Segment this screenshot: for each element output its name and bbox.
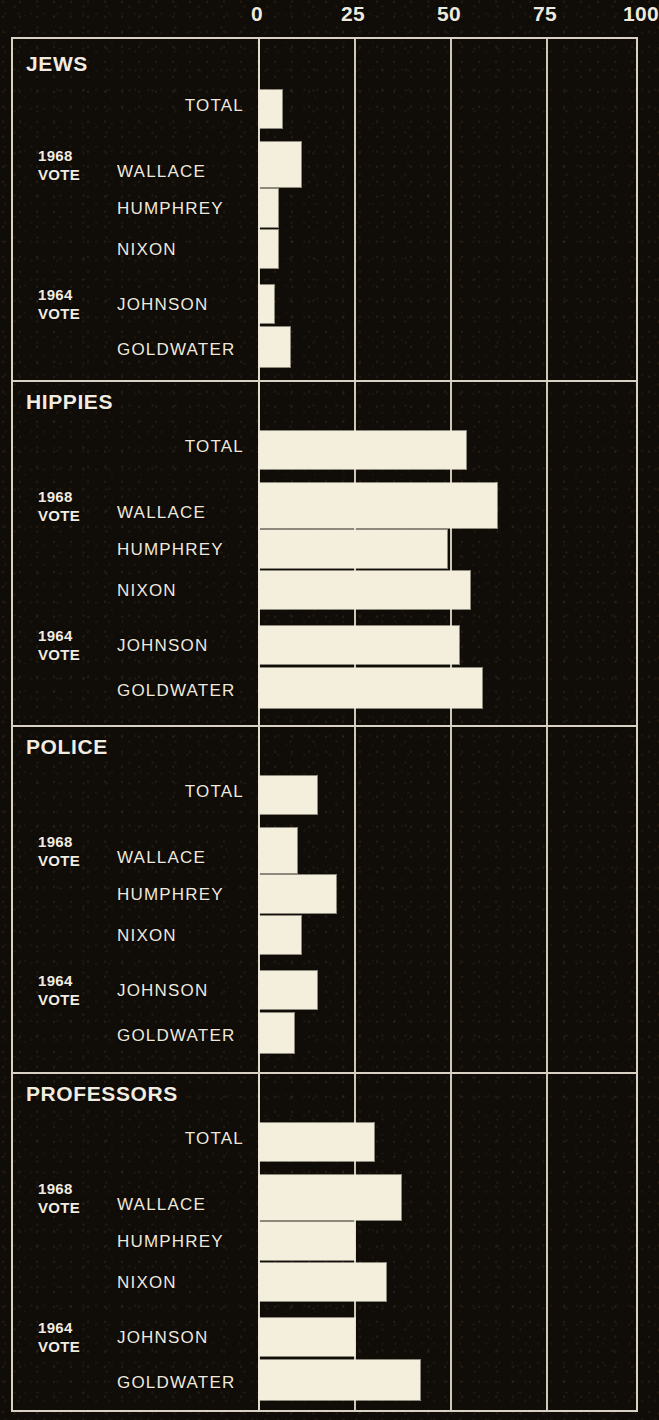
bar [259,668,482,708]
bar [259,626,459,664]
chart-row: JOHNSON [13,626,636,664]
bar [259,483,497,528]
chart-row: WALLACE [13,828,636,873]
row-label: GOLDWATER [117,1373,235,1393]
panel-divider [13,1072,636,1074]
row-label: HUMPHREY [117,885,224,905]
bar [259,571,470,609]
chart-row: GOLDWATER [13,327,636,367]
bar [259,285,274,323]
bar [259,327,290,367]
x-axis-tick-labels: 0255075100 [0,2,659,34]
chart-row: JOHNSON [13,1318,636,1356]
chart-row: TOTAL [13,90,636,128]
row-label: JOHNSON [117,295,209,315]
chart-row: NIXON [13,230,636,268]
bar [259,142,301,187]
row-label: JOHNSON [117,1328,209,1348]
chart-row: GOLDWATER [13,668,636,708]
chart-row: NIXON [13,1263,636,1301]
row-label: WALLACE [117,503,206,523]
bar [259,828,297,873]
x-axis-tick-label: 0 [251,2,263,26]
x-axis-tick-label: 100 [623,2,659,26]
bar [259,875,336,913]
panel-title: JEWS [26,52,88,76]
bar [259,1318,355,1356]
panel-hippies: HIPPIES1968VOTE1964VOTETOTALWALLACEHUMPH… [13,380,636,725]
panel-divider [13,725,636,727]
chart-row: GOLDWATER [13,1360,636,1400]
bar [259,1263,386,1301]
panel-professors: PROFESSORS1968VOTE1964VOTETOTALWALLACEHU… [13,1072,636,1414]
bar [259,1360,420,1400]
bar [259,189,278,227]
bar [259,431,466,469]
bar [259,530,447,568]
plot-frame: JEWS1968VOTE1964VOTETOTALWALLACEHUMPHREY… [11,37,638,1412]
row-label: WALLACE [117,1195,206,1215]
chart-row: HUMPHREY [13,875,636,913]
panel-title: HIPPIES [26,390,113,414]
chart-row: HUMPHREY [13,530,636,568]
chart-row: WALLACE [13,483,636,528]
row-label: GOLDWATER [117,340,235,360]
chart-row: HUMPHREY [13,189,636,227]
row-label: HUMPHREY [117,199,224,219]
bar [259,1175,401,1220]
row-label: WALLACE [117,162,206,182]
chart-row: NIXON [13,571,636,609]
row-label: NIXON [117,1273,177,1293]
x-axis-tick-label: 25 [341,2,365,26]
chart-row: JOHNSON [13,971,636,1009]
chart-row: TOTAL [13,776,636,814]
row-label: TOTAL [185,1129,244,1149]
panel-police: POLICE1968VOTE1964VOTETOTALWALLACEHUMPHR… [13,725,636,1072]
bar [259,971,317,1009]
row-label: JOHNSON [117,636,209,656]
row-label: GOLDWATER [117,681,235,701]
chart-row: NIXON [13,916,636,954]
row-label: HUMPHREY [117,540,224,560]
bar [259,776,317,814]
panel-jews: JEWS1968VOTE1964VOTETOTALWALLACEHUMPHREY… [13,39,636,380]
row-label: TOTAL [185,437,244,457]
row-label: HUMPHREY [117,1232,224,1252]
row-label: TOTAL [185,782,244,802]
row-label: GOLDWATER [117,1026,235,1046]
row-label: TOTAL [185,96,244,116]
row-label: NIXON [117,581,177,601]
bar [259,230,278,268]
bar [259,90,282,128]
x-axis-tick-label: 75 [533,2,557,26]
row-label: WALLACE [117,848,206,868]
bar [259,1222,355,1260]
panel-title: POLICE [26,735,108,759]
bar [259,1123,374,1161]
panel-divider [13,380,636,382]
chart-row: GOLDWATER [13,1013,636,1053]
chart-row: WALLACE [13,1175,636,1220]
chart-row: TOTAL [13,431,636,469]
chart-row: WALLACE [13,142,636,187]
row-label: NIXON [117,240,177,260]
chart-row: TOTAL [13,1123,636,1161]
chart-row: JOHNSON [13,285,636,323]
bar [259,1013,294,1053]
chart-page: 0255075100 JEWS1968VOTE1964VOTETOTALWALL… [0,0,659,1420]
bar [259,916,301,954]
chart-row: HUMPHREY [13,1222,636,1260]
panel-title: PROFESSORS [26,1082,178,1106]
row-label: JOHNSON [117,981,209,1001]
row-label: NIXON [117,926,177,946]
x-axis-tick-label: 50 [437,2,461,26]
